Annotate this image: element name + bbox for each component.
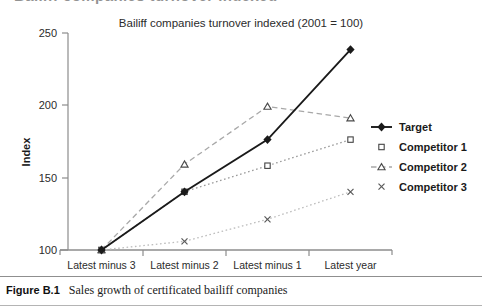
y-tick-label-200: 200: [39, 99, 57, 111]
legend-label-target: Target: [399, 121, 432, 133]
series-competitor-2-line: [102, 107, 351, 251]
legend-item-target[interactable]: Target: [371, 121, 432, 133]
legend-item-competitor-3[interactable]: Competitor 3: [379, 181, 467, 193]
series-target-line: [102, 50, 351, 250]
legend-label-competitor-1: Competitor 1: [399, 141, 467, 153]
x-category-label-0: Latest minus 3: [67, 259, 135, 271]
figure-caption: Figure B.1Sales growth of certificated b…: [6, 283, 476, 298]
series-competitor-3: [99, 189, 354, 253]
bleed-text: Bailiff companies turnover indexed: [14, 0, 278, 4]
line-chart-svg: 250 200 150 100 Index Latest minus 3 Lat…: [0, 7, 482, 271]
legend-item-competitor-2[interactable]: Competitor 2: [371, 161, 467, 173]
figure-caption-text: Sales growth of certificated bailiff com…: [69, 283, 288, 297]
square-icon: [379, 144, 384, 149]
caption-top-rule: [0, 276, 482, 277]
y-axis-ticks: [60, 33, 68, 250]
figure-page: Bailiff companies turnover indexed Baili…: [0, 0, 482, 308]
legend-item-competitor-1[interactable]: Competitor 1: [379, 141, 467, 153]
series-competitor-1-markers: [99, 137, 353, 253]
x-category-label-3: Latest year: [325, 259, 377, 271]
caption-bottom-rule: [0, 305, 482, 306]
y-tick-label-150: 150: [39, 172, 57, 184]
page-bleed-strip: Bailiff companies turnover indexed: [0, 0, 482, 7]
plot-area: 250 200 150 100 Index Latest minus 3 Lat…: [0, 7, 482, 271]
y-tick-label-100: 100: [39, 244, 57, 256]
legend-label-competitor-3: Competitor 3: [399, 181, 467, 193]
chart-legend: Target Competitor 1 Competitor 2: [371, 121, 467, 193]
series-competitor-1: [99, 137, 353, 253]
x-category-label-1: Latest minus 2: [150, 259, 218, 271]
figure-number-label: Figure B.1: [6, 284, 60, 296]
series-competitor-3-markers: [99, 189, 354, 253]
diamond-icon: [377, 123, 385, 132]
cross-icon: [379, 184, 385, 190]
figure-chart-area: Bailiff companies turnover indexed (2001…: [0, 7, 482, 271]
legend-label-competitor-2: Competitor 2: [399, 161, 467, 173]
y-axis-title: Index: [20, 137, 32, 167]
y-tick-label-250: 250: [39, 27, 57, 39]
x-category-label-2: Latest minus 1: [233, 259, 301, 271]
x-axis-ticks: [60, 250, 392, 256]
series-competitor-3-line: [102, 192, 351, 250]
series-competitor-1-line: [102, 140, 351, 250]
